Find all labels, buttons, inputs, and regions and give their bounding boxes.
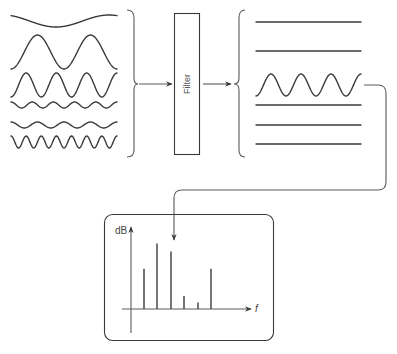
input-wave-3	[11, 73, 117, 97]
input-wave-6	[11, 136, 117, 148]
right-brace	[234, 10, 245, 157]
y-axis-label: dB	[115, 226, 127, 236]
input-wave-4	[11, 102, 117, 108]
filter-label: Filter	[182, 74, 192, 94]
left-brace	[127, 10, 138, 157]
input-wave-2	[11, 35, 117, 69]
x-axis-label: f	[255, 304, 258, 314]
connector-arrow	[174, 85, 386, 240]
spectrum-bars	[144, 243, 211, 309]
output-signals	[256, 22, 361, 144]
input-wave-1	[11, 15, 117, 27]
input-wave-5	[11, 122, 117, 128]
output-passed-wave	[256, 74, 361, 96]
filter-diagram	[0, 0, 397, 354]
spectrum-box	[105, 215, 274, 341]
input-waves	[11, 15, 117, 148]
